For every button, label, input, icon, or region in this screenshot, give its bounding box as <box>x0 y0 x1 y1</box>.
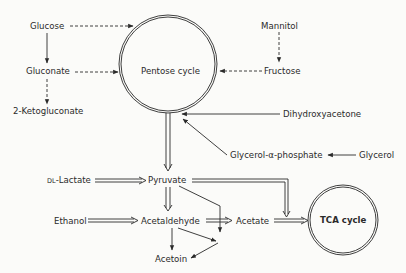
node-tca-cycle: TCA cycle <box>320 215 366 225</box>
pathway-diagram <box>0 0 406 273</box>
node-dl-lactate: DL-Lactate <box>47 175 91 186</box>
node-dihydroxyacetone: Dihydroxyacetone <box>283 109 361 119</box>
node-ethanol: Ethanol <box>54 216 87 226</box>
node-acetoin: Acetoin <box>155 254 187 264</box>
node-glycerol: Glycerol <box>359 150 394 160</box>
node-pentose-cycle: Pentose cycle <box>141 66 200 76</box>
node-glucose: Glucose <box>30 21 64 31</box>
node-glycerol-alpha-phosphate: Glycerol-α-phosphate <box>230 150 322 160</box>
node-pyruvate: Pyruvate <box>148 175 186 185</box>
node-mannitol: Mannitol <box>261 21 298 31</box>
node-acetaldehyde: Acetaldehyde <box>141 216 200 226</box>
node-fructose: Fructose <box>264 66 300 76</box>
node-acetate: Acetate <box>236 216 269 226</box>
node-2-ketogluconate: 2-Ketogluconate <box>13 106 83 116</box>
node-gluconate: Gluconate <box>26 66 70 76</box>
pentose-cycle-circle <box>119 15 217 113</box>
